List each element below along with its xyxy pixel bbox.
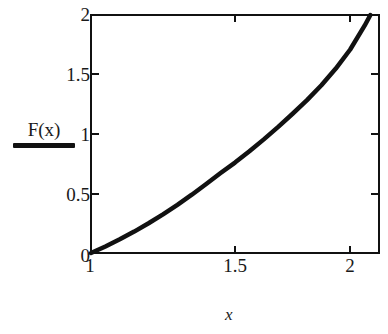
y-tick-label-2: 2 — [81, 5, 91, 24]
y-tick-label-1.5: 1.5 — [66, 65, 90, 84]
y-tick-mark-0.5 — [90, 193, 99, 195]
y-tick-mark-0 — [90, 252, 99, 254]
x-tick-label-1.5: 1.5 — [215, 256, 255, 275]
x-tick-label-2: 2 — [330, 256, 370, 275]
x-tick-mark-top-2 — [349, 14, 351, 22]
y-tick-mark-right-1.5 — [371, 73, 380, 75]
chart-figure: F(x) 0 0.5 1 1.5 2 1 1.5 2 x — [0, 0, 388, 334]
y-tick-mark-right-1 — [371, 133, 380, 135]
x-tick-mark-1.5 — [234, 246, 236, 254]
x-tick-mark-top-1.5 — [234, 14, 236, 22]
y-tick-label-0.5: 0.5 — [66, 185, 90, 204]
y-tick-mark-right-0.5 — [371, 193, 380, 195]
y-tick-mark-1.5 — [90, 73, 99, 75]
y-tick-label-1: 1 — [81, 125, 91, 144]
x-tick-label-1: 1 — [70, 256, 110, 275]
y-tick-mark-1 — [90, 133, 99, 135]
legend-entry-label: F(x) — [8, 120, 80, 140]
plot-area — [90, 14, 380, 254]
legend-line-swatch — [13, 143, 75, 148]
chart-legend: F(x) — [8, 120, 80, 148]
x-axis-title: x — [225, 306, 233, 323]
x-tick-mark-2 — [349, 246, 351, 254]
